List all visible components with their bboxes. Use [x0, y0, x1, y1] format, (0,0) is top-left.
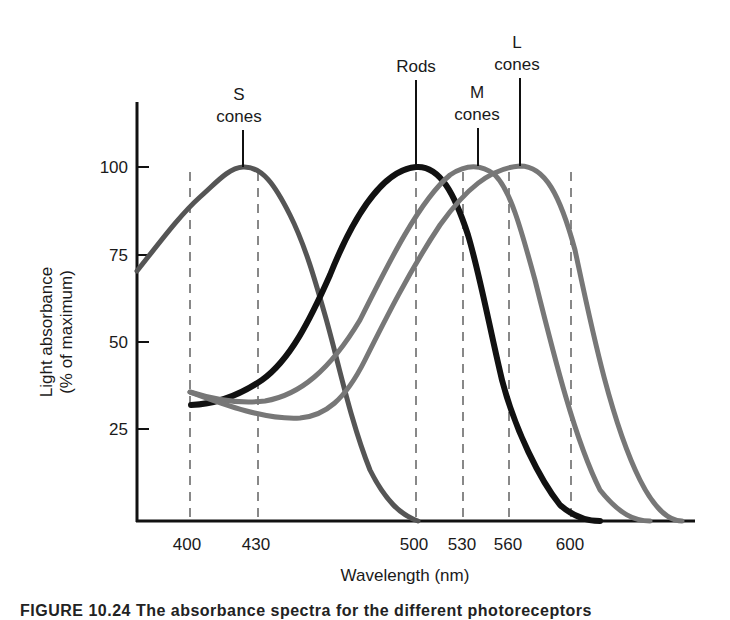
curve-l-cones [190, 166, 682, 521]
label-l-cones-line1: L [512, 33, 521, 52]
x-tick-label-600: 600 [556, 535, 584, 554]
x-tick-label-400: 400 [173, 535, 201, 554]
x-tick-label-560: 560 [494, 535, 522, 554]
reference-lines [190, 172, 571, 521]
y-tick-label-50: 50 [109, 333, 128, 352]
x-tick-label-500: 500 [400, 535, 428, 554]
label-rods: Rods [396, 57, 436, 76]
label-m-cones-line1: M [470, 83, 484, 102]
label-m-cones-line2: cones [454, 105, 499, 124]
figure-caption: FIGURE 10.24 The absorbance spectra for … [20, 602, 592, 620]
x-tick-label-530: 530 [448, 535, 476, 554]
y-axis-title-line1: Light absorbance [37, 267, 56, 397]
curve-s-cones [137, 167, 418, 521]
y-tick-label-100: 100 [100, 158, 128, 177]
label-s-cones-line2: cones [216, 107, 261, 126]
label-s-cones-line1: S [233, 85, 244, 104]
label-l-cones-line2: cones [494, 55, 539, 74]
y-tick-label-75: 75 [109, 246, 128, 265]
y-tick-label-25: 25 [109, 420, 128, 439]
x-tick-label-430: 430 [242, 535, 270, 554]
curve-rods [191, 167, 600, 521]
x-axis-title: Wavelength (nm) [341, 566, 470, 585]
y-axis-title-line2: (% of maximum) [57, 270, 76, 394]
